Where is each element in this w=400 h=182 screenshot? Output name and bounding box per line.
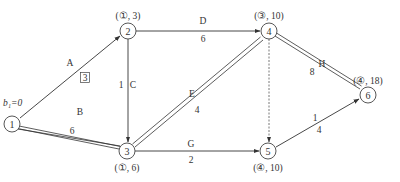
node-label: 3 bbox=[125, 146, 130, 157]
node-5: 5 bbox=[260, 143, 276, 159]
edge-activity-label: H bbox=[319, 59, 326, 69]
node-1: 1 bbox=[4, 116, 20, 132]
edge-duration-label: 4 bbox=[317, 125, 322, 135]
node-annotation: (④, 18) bbox=[353, 76, 383, 87]
node-label: 6 bbox=[366, 90, 371, 101]
node-label: 2 bbox=[126, 26, 131, 37]
edge-duration-label: 1 bbox=[119, 80, 124, 90]
node-annotation: (③, 10) bbox=[254, 11, 284, 22]
edge-duration-label: 2 bbox=[189, 155, 194, 165]
node-label: 5 bbox=[266, 146, 271, 157]
network-diagram: 123456 (①, 3)(①, 6)(③, 10)(④, 10)(④, 18)… bbox=[0, 0, 400, 182]
edge-duration-label: 6 bbox=[201, 34, 206, 44]
edge-duration-label: 3 bbox=[83, 73, 88, 83]
edge-activity-label: B bbox=[77, 107, 83, 117]
node-6: 6 bbox=[360, 87, 376, 103]
edge-E bbox=[133, 37, 264, 147]
node-annotation: (①, 6) bbox=[115, 163, 140, 174]
node-3: 3 bbox=[119, 143, 135, 159]
edge-activity-label: G bbox=[188, 139, 195, 149]
edge-I bbox=[276, 99, 359, 147]
edge-activity-label: E bbox=[189, 89, 195, 99]
edge-duration-label: 6 bbox=[70, 126, 75, 136]
edge-activity-label: 1 bbox=[313, 113, 318, 123]
edge-A bbox=[20, 36, 120, 118]
edge-activity-label: C bbox=[130, 80, 136, 90]
node-label: 4 bbox=[267, 26, 272, 37]
node-4: 4 bbox=[261, 23, 277, 39]
edge-duration-label: 8 bbox=[310, 67, 315, 77]
node-annotation: (①, 3) bbox=[116, 11, 141, 22]
edge-activity-label: A bbox=[67, 58, 74, 68]
start-label: b₁=0 bbox=[3, 98, 22, 108]
node-label: 1 bbox=[10, 119, 15, 130]
node-2: 2 bbox=[120, 23, 136, 39]
edge-duration-label: 4 bbox=[195, 105, 200, 115]
edge-activity-label: D bbox=[200, 16, 207, 26]
node-annotation: (④, 10) bbox=[253, 163, 283, 174]
